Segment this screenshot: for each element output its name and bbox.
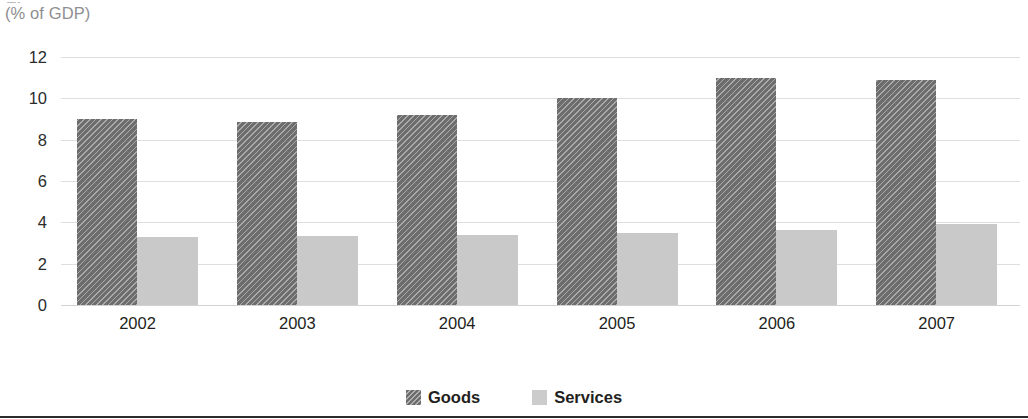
bar-goods-2007 bbox=[876, 80, 936, 305]
legend-item-services[interactable]: Services bbox=[532, 388, 622, 407]
x-axis-tick-label-2006: 2006 bbox=[707, 315, 847, 332]
gridline bbox=[61, 305, 1020, 306]
bar-services-2004 bbox=[457, 235, 518, 305]
chart-subtitle: (% of GDP) bbox=[5, 4, 90, 23]
x-axis-tick-label-2005: 2005 bbox=[547, 315, 687, 332]
legend-swatch-goods-icon bbox=[406, 390, 421, 405]
legend-label-services: Services bbox=[554, 388, 622, 407]
y-axis-tick-label: 4 bbox=[0, 214, 47, 231]
chart-figure: Figure (% of GDP) 024681012 200220032004… bbox=[0, 0, 1028, 419]
y-axis-tick-label: 10 bbox=[0, 90, 47, 107]
y-axis-tick-label: 12 bbox=[0, 49, 47, 66]
y-axis-tick-label: 8 bbox=[0, 132, 47, 149]
chart-legend: Goods Services bbox=[0, 388, 1028, 407]
legend-swatch-services-icon bbox=[532, 390, 547, 405]
bottom-rule bbox=[0, 416, 1028, 418]
bar-services-2002 bbox=[137, 237, 198, 305]
plot-area bbox=[61, 57, 1020, 305]
bar-goods-2004 bbox=[397, 115, 457, 305]
gridline bbox=[61, 57, 1020, 58]
legend-label-goods: Goods bbox=[428, 388, 480, 407]
y-axis-tick-label: 2 bbox=[0, 256, 47, 273]
legend-item-goods[interactable]: Goods bbox=[406, 388, 480, 407]
x-axis-tick-label-2004: 2004 bbox=[387, 315, 527, 332]
bar-services-2005 bbox=[617, 233, 678, 305]
figure-title-cropped: Figure bbox=[6, 0, 306, 3]
bar-goods-2002 bbox=[77, 119, 137, 305]
x-axis-tick-label-2003: 2003 bbox=[227, 315, 367, 332]
bar-goods-2003 bbox=[237, 122, 297, 305]
x-axis-tick-label-2002: 2002 bbox=[68, 315, 208, 332]
bar-goods-2005 bbox=[557, 98, 617, 305]
bar-services-2007 bbox=[936, 224, 997, 305]
bar-services-2006 bbox=[776, 230, 837, 305]
y-axis-tick-label: 6 bbox=[0, 173, 47, 190]
x-axis-tick-label-2007: 2007 bbox=[867, 315, 1007, 332]
bar-goods-2006 bbox=[716, 78, 776, 305]
y-axis-tick-label: 0 bbox=[0, 297, 47, 314]
bar-services-2003 bbox=[297, 236, 358, 305]
